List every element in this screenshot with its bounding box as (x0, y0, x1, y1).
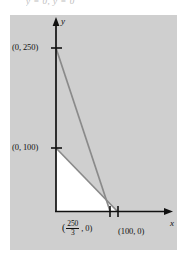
y-axis-arrowhead (53, 17, 60, 26)
point-label-250-over-3-0: ( 250 3 , 0) (62, 220, 92, 236)
fraction-250-over-3: 250 3 (66, 220, 79, 236)
point-label-0-250: (0, 250) (12, 42, 38, 52)
figure-root: y = 0, y = 0 y x (0, 250) (0, 100) ( 250 (0, 0, 182, 259)
fraction-close-paren: , 0) (81, 224, 92, 233)
fraction-denominator: 3 (70, 229, 76, 237)
x-axis-arrowhead (164, 208, 173, 215)
fraction-numerator: 250 (66, 220, 79, 228)
point-label-100-0: (100, 0) (118, 226, 144, 236)
y-axis-label: y (60, 16, 65, 26)
x-axis-label: x (169, 218, 174, 228)
fraction-open-paren: ( (62, 223, 65, 233)
point-label-0-100: (0, 100) (12, 142, 38, 152)
